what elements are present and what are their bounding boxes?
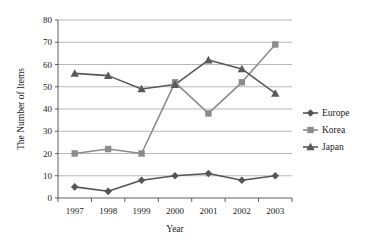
series-lines-group [75,44,276,191]
x-tick-marks-group [58,198,292,202]
data-point-marker [105,146,111,152]
y-tick-label: 40 [43,104,53,114]
data-point-marker [307,127,313,133]
line-chart: 01020304050607080 1997199819992000200120… [0,0,372,241]
data-point-marker [138,150,144,156]
data-point-marker [138,176,146,184]
y-tick-label: 50 [43,82,53,92]
legend-label-korea: Korea [322,125,346,135]
data-point-marker [72,150,78,156]
y-tick-labels-group: 01020304050607080 [43,15,53,203]
y-tick-label: 80 [43,15,53,25]
data-point-marker [104,188,112,196]
legend-label-japan: Japan [322,142,344,152]
data-point-marker [239,79,245,85]
y-axis-title: The Number of Items [16,68,26,150]
series-line-japan [75,60,276,93]
chart-figure: 01020304050607080 1997199819992000200120… [0,0,372,241]
gridlines-group [58,20,292,176]
x-axis-title: Year [166,224,184,234]
data-point-marker [205,170,213,178]
x-tick-label: 2002 [233,206,251,216]
x-tick-label: 2001 [199,206,217,216]
x-tick-label: 1997 [66,206,85,216]
data-point-marker [204,56,212,64]
x-tick-label: 1998 [99,206,118,216]
x-tick-labels-group: 1997199819992000200120022003 [66,206,285,216]
x-tick-label: 2003 [266,206,285,216]
x-tick-label: 2000 [166,206,185,216]
data-point-marker [272,41,278,47]
series-line-korea [75,44,276,153]
data-point-marker [71,183,79,191]
data-point-marker [171,172,179,180]
data-point-marker [271,172,279,180]
y-tick-label: 20 [43,149,53,159]
data-point-marker [307,109,315,117]
y-tick-label: 60 [43,60,53,70]
legend: EuropeKoreaJapan [303,108,349,152]
y-tick-label: 0 [48,193,53,203]
data-point-marker [205,110,211,116]
y-tick-label: 30 [43,126,53,136]
y-tick-label: 10 [43,171,53,181]
data-point-marker [238,176,246,184]
y-tick-label: 70 [43,37,53,47]
x-tick-label: 1999 [133,206,152,216]
legend-label-europe: Europe [322,108,349,118]
